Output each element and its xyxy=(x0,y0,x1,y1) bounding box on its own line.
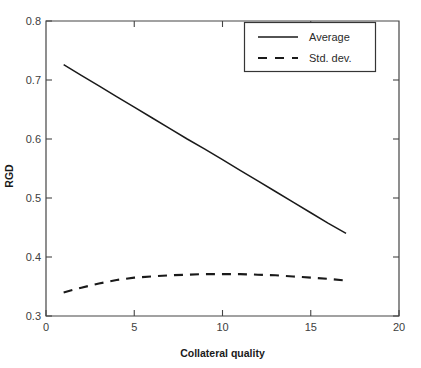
legend: Average Std. dev. xyxy=(245,23,376,72)
chart-svg: 0.3 0.4 0.5 0.6 0.7 0.8 0 5 10 15 20 Col… xyxy=(0,0,421,368)
y-tick-label: 0.4 xyxy=(26,251,41,263)
x-axis-title: Collateral quality xyxy=(180,347,265,359)
y-tick-label: 0.8 xyxy=(26,15,41,27)
legend-label-average: Average xyxy=(309,31,350,43)
x-tick-label: 0 xyxy=(43,321,49,333)
y-tick-label: 0.3 xyxy=(26,310,41,322)
series-line-average xyxy=(64,65,346,234)
legend-label-std-dev: Std. dev. xyxy=(309,52,352,64)
x-tick-label: 15 xyxy=(305,321,317,333)
x-tick-label: 20 xyxy=(393,321,405,333)
x-tick-labels: 0 5 10 15 20 xyxy=(43,321,405,333)
y-tick-label: 0.6 xyxy=(26,133,41,145)
data-series-group xyxy=(64,65,346,293)
series-line-std-dev xyxy=(64,274,346,292)
y-tick-label: 0.7 xyxy=(26,74,41,86)
x-tick-label: 5 xyxy=(131,321,137,333)
x-tick-label: 10 xyxy=(216,321,228,333)
chart-figure: 0.3 0.4 0.5 0.6 0.7 0.8 0 5 10 15 20 Col… xyxy=(0,0,421,368)
y-axis-title: RGD xyxy=(3,164,15,188)
y-tick-label: 0.5 xyxy=(26,192,41,204)
y-tick-labels: 0.3 0.4 0.5 0.6 0.7 0.8 xyxy=(26,15,41,322)
legend-box xyxy=(245,23,376,72)
